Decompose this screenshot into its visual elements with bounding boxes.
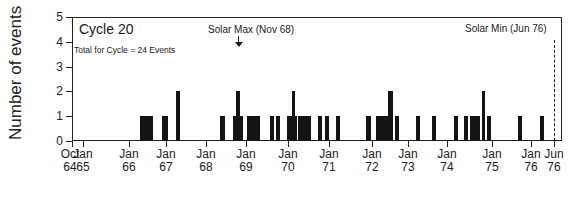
- chart-title: Cycle 20: [79, 21, 133, 37]
- bar: [540, 116, 544, 141]
- bar: [240, 116, 243, 141]
- bar: [220, 116, 225, 141]
- x-tick-label: Jan69: [229, 148, 263, 174]
- chart-subtitle: Total for Cycle = 24 Events: [74, 45, 175, 55]
- bar: [162, 116, 168, 141]
- y-tick: [66, 17, 73, 18]
- x-tick-label: Jan68: [189, 148, 223, 174]
- x-tick-label-year: 72: [355, 161, 389, 174]
- x-tick-label-year: 66: [112, 161, 146, 174]
- x-tick-label: Jan72: [355, 148, 389, 174]
- y-tick: [66, 67, 73, 68]
- x-tick-label: Jan75: [475, 148, 509, 174]
- y-axis-label-text: Number of events: [6, 6, 26, 140]
- x-tick-label: Jan65: [66, 148, 100, 174]
- bar: [518, 116, 522, 141]
- y-tick-label: 3: [53, 60, 63, 74]
- bar: [276, 116, 280, 141]
- y-tick-label: 0: [53, 134, 63, 148]
- solar-max-annotation: Solar Max (Nov 68): [208, 24, 294, 35]
- x-tick-label: Jun76: [537, 148, 571, 174]
- bar: [247, 116, 260, 141]
- bar: [295, 116, 297, 141]
- y-tick-label: 2: [53, 84, 63, 98]
- bar: [176, 91, 180, 141]
- bar: [432, 116, 436, 141]
- bar: [318, 116, 322, 141]
- bar: [416, 116, 420, 141]
- x-tick-label-year: 65: [66, 161, 100, 174]
- bar: [395, 116, 399, 141]
- solar-min-annotation: Solar Min (Jun 76): [465, 23, 547, 34]
- x-tick-label: Jan66: [112, 148, 146, 174]
- solar-min-dashed-line: [554, 40, 555, 141]
- x-tick-label: Jan67: [149, 148, 183, 174]
- bar: [336, 116, 340, 141]
- y-tick-label: 4: [53, 35, 63, 49]
- bar: [482, 91, 485, 141]
- x-tick-label-year: 74: [430, 161, 464, 174]
- x-tick-label-year: 71: [312, 161, 346, 174]
- x-tick-label-year: 76: [537, 161, 571, 174]
- bar: [388, 91, 393, 141]
- bar: [470, 116, 480, 141]
- x-tick-label-year: 67: [149, 161, 183, 174]
- bar: [146, 116, 153, 141]
- bar: [298, 116, 311, 141]
- bar: [454, 116, 458, 141]
- x-tick-label: Jan71: [312, 148, 346, 174]
- x-tick-label-year: 73: [391, 161, 425, 174]
- arrow-down-icon: [235, 42, 243, 47]
- y-tick: [66, 42, 73, 43]
- y-tick-label: 1: [53, 109, 63, 123]
- x-tick-label: Jan73: [391, 148, 425, 174]
- x-tick-label: Jan70: [271, 148, 305, 174]
- y-tick-label: 5: [53, 10, 63, 24]
- x-tick-label-year: 69: [229, 161, 263, 174]
- bar: [487, 116, 491, 141]
- bar: [270, 116, 274, 141]
- x-tick-label-year: 68: [189, 161, 223, 174]
- bar: [464, 116, 468, 141]
- bar: [366, 116, 371, 141]
- bar: [376, 116, 388, 141]
- y-tick: [66, 91, 73, 92]
- x-tick-label-year: 70: [271, 161, 305, 174]
- bar: [325, 116, 329, 141]
- x-tick-label-year: 75: [475, 161, 509, 174]
- x-tick-label: Jan74: [430, 148, 464, 174]
- y-tick: [66, 116, 73, 117]
